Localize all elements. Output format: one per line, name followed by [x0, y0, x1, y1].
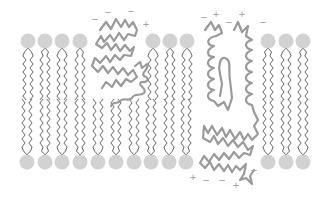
coiled-helix-protein-left [111, 62, 148, 106]
lipid-tail [146, 99, 151, 155]
negative-charge-label: − [127, 6, 135, 16]
lipid-head [55, 155, 70, 170]
lipid-tail [40, 99, 45, 155]
lipid-tail [286, 48, 291, 100]
lipid-tail [98, 99, 103, 155]
lipid-head [20, 155, 35, 170]
lipid-tail [169, 99, 174, 155]
lipid-tail [164, 99, 169, 155]
lipid-head [21, 34, 36, 49]
lipid-head [91, 155, 106, 170]
lipid-tail [298, 99, 303, 155]
coiled-helix-protein-right [234, 22, 254, 112]
lipid-tail [129, 99, 134, 155]
lipid-tail [148, 48, 153, 100]
negative-charge-label: − [250, 165, 258, 175]
lipid-head [279, 34, 294, 49]
lipid-head [296, 155, 311, 170]
lipid-tail [23, 48, 28, 100]
negative-charge-label: − [200, 12, 208, 22]
lipid-tail [45, 48, 50, 100]
negative-charge-label: − [225, 17, 233, 27]
positive-charge-label: + [212, 9, 220, 19]
lipid-tail [93, 99, 98, 155]
lipid-head [296, 34, 311, 49]
lipid-head [163, 34, 178, 49]
lipid-bilayer-diagram: −−−+−+−+−+−−+− [0, 0, 326, 201]
lipid-tail [181, 99, 186, 155]
lipid-tail [281, 48, 286, 100]
lipid-head [261, 34, 276, 49]
lipid-head [180, 34, 195, 49]
lipid-tail [57, 48, 62, 100]
lipid-head [279, 155, 294, 170]
lipid-head [146, 34, 161, 49]
lipid-tail [186, 99, 191, 155]
positive-charge-label: + [189, 172, 197, 182]
lipid-tail [22, 99, 27, 155]
negative-charge-label: − [218, 175, 226, 185]
lipid-tail [263, 99, 268, 155]
peripheral-zigzag-protein [92, 19, 137, 88]
lipid-head [179, 155, 194, 170]
lipid-tail [134, 99, 139, 155]
lipid-tail [75, 48, 80, 100]
lipid-tail [303, 99, 308, 155]
lipid-tail [165, 48, 170, 100]
lipid-head [55, 34, 70, 49]
lipid-tail [151, 99, 156, 155]
lipid-tail [57, 99, 62, 155]
positive-charge-label: + [232, 180, 240, 190]
lipid-tail [298, 48, 303, 100]
lipid-tail [153, 48, 158, 100]
lipid-tail [45, 99, 50, 155]
negative-charge-label: − [104, 7, 112, 17]
bilayer-canvas: −−−+−+−+−+−−+− [0, 0, 326, 201]
lipid-head [127, 155, 142, 170]
lipid-tail [182, 48, 187, 100]
lipid-head [261, 155, 276, 170]
lipid-tail [281, 99, 286, 155]
lipid-head [109, 155, 124, 170]
lipid-tail [187, 48, 192, 100]
lipid-tail [111, 99, 116, 155]
negative-charge-label: − [259, 17, 267, 27]
lipid-head [38, 155, 53, 170]
lipid-tails [22, 48, 308, 155]
lipid-tail [80, 48, 85, 100]
lipid-head [38, 34, 53, 49]
lipid-tail [62, 48, 67, 100]
lipid-tail [80, 99, 85, 155]
negative-charge-label: − [202, 175, 210, 185]
lipid-tail [303, 48, 308, 100]
lipid-head [73, 34, 88, 49]
positive-charge-label: + [142, 19, 150, 29]
lipid-tail [286, 99, 291, 155]
lipid-tail [170, 48, 175, 100]
transmembrane-helical-protein [205, 22, 232, 110]
lipid-tail [263, 48, 268, 100]
lipid-tail [116, 99, 121, 155]
lipid-tail [62, 99, 67, 155]
positive-charge-label: + [238, 9, 246, 19]
negative-charge-label: − [91, 14, 99, 24]
lipid-head [73, 155, 88, 170]
lipid-tail [28, 48, 33, 100]
lipid-head [162, 155, 177, 170]
lipid-tail [27, 99, 32, 155]
lipid-tail [75, 99, 80, 155]
lipid-head [144, 155, 159, 170]
lipid-tail [40, 48, 45, 100]
lipid-tail [268, 99, 273, 155]
lipid-tail [268, 48, 273, 100]
